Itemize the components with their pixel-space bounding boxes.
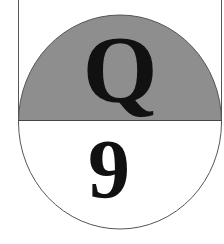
bottom-number: 9 [0, 128, 221, 212]
top-letter: Q [8, 22, 224, 118]
